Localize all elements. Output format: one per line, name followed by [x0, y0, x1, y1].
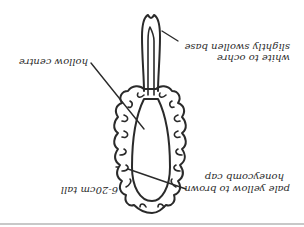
leader-cap — [128, 169, 186, 189]
leader-stem — [162, 31, 178, 41]
label-stem-base: slightly swollen base — [185, 42, 290, 53]
leader-centre — [91, 63, 144, 129]
morel-diagram: pale yellow to brown honeycomb cap 6-20c… — [0, 0, 304, 227]
label-stem-color: white to ochre — [217, 53, 290, 64]
stem-inner — [148, 27, 154, 95]
hollow-cavity — [132, 99, 170, 201]
label-hollow-centre: hollow centre — [19, 57, 88, 68]
label-cap-color: pale yellow to brown — [184, 184, 290, 195]
label-cap-type: honeycomb cap — [205, 172, 284, 183]
label-size: 6-20cm tall — [61, 185, 118, 196]
stem-outline — [142, 15, 160, 91]
